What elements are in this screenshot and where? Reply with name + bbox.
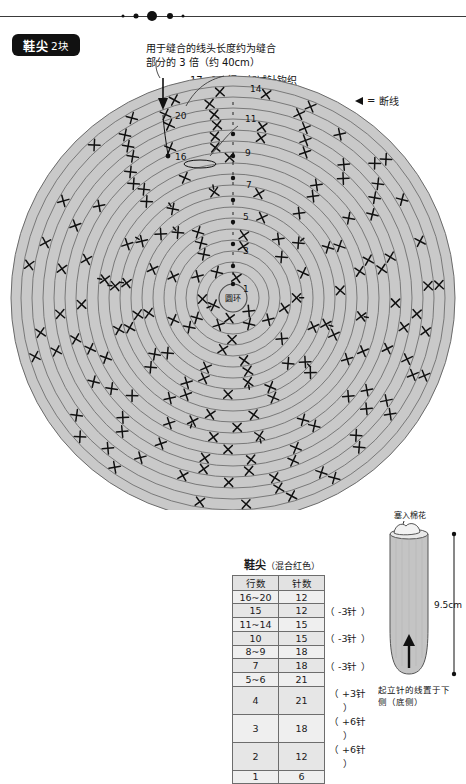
cell-change-note: [325, 618, 371, 631]
rule-line: [0, 16, 466, 17]
change-note-label: （ -3针 ）: [325, 633, 371, 644]
cell-row-number: 16~20: [233, 591, 279, 604]
cell-row-number: 4: [233, 686, 279, 714]
col-header-note: [325, 576, 371, 591]
row-label-11: 11: [245, 114, 256, 124]
table-row: 8~918: [233, 645, 371, 658]
cell-stitch-count: 18: [279, 714, 325, 742]
shoe-tip-illustration: 塞入棉花 9.5cm 起立针的线置于下 侧（底侧）: [378, 508, 466, 716]
footer-note-line2: 侧（底侧）: [378, 697, 423, 707]
top-decorative-rule: [0, 14, 466, 18]
col-header-stitches: 针数: [279, 576, 325, 591]
round-crochet-chart: 圆环 1 3 5 7 9 11 14 16 20 16: [0, 60, 466, 510]
table-row: 718（ -3针 ）: [233, 659, 371, 673]
stitch-count-table-wrap: 鞋尖（混合红色） 行数 针数 16~20121512（ -3针 ）11~1415…: [232, 556, 371, 784]
cotton-stuffing: [394, 524, 420, 535]
table-header-row: 行数 针数: [233, 576, 371, 591]
stitch-count-table: 行数 针数 16~20121512（ -3针 ）11~14151015（ -3针…: [232, 575, 371, 784]
row-label-3: 3: [243, 246, 249, 256]
table-row: 11~1415: [233, 618, 371, 631]
table-row: 16: [233, 770, 371, 783]
table-row: 16~2012: [233, 591, 371, 604]
page-title-count: 2块: [51, 38, 69, 53]
cell-row-number: 1: [233, 770, 279, 783]
row-label-20: 20: [175, 111, 187, 121]
height-label: 9.5cm: [434, 600, 462, 610]
table-row: 421（ +3针 ）: [233, 686, 371, 714]
stuffing-label: 塞入棉花: [394, 510, 426, 520]
cell-row-number: 7: [233, 659, 279, 673]
cell-stitch-count: 12: [279, 742, 325, 770]
cell-row-number: 2: [233, 742, 279, 770]
annotation-tail-length-line1: 用于缝合的线头长度约为缝合: [146, 42, 276, 56]
row-label-5: 5: [243, 212, 249, 222]
page-title: 鞋尖: [23, 37, 48, 54]
cell-row-number: 10: [233, 631, 279, 645]
cell-row-number: 3: [233, 714, 279, 742]
change-note-label: （ -3针 ）: [325, 606, 371, 617]
col-header-rows: 行数: [233, 576, 279, 591]
cell-row-number: 5~6: [233, 673, 279, 686]
cell-stitch-count: 12: [279, 591, 325, 604]
cell-stitch-count: 15: [279, 618, 325, 631]
footer-note-line1: 起立针的线置于下: [378, 685, 450, 695]
cell-stitch-count: 15: [279, 631, 325, 645]
rule-dot: [147, 11, 157, 21]
rule-dot: [182, 15, 185, 18]
rule-dot: [134, 14, 139, 19]
cell-stitch-count: 6: [279, 770, 325, 783]
table-row: 1015（ -3针 ）: [233, 631, 371, 645]
rule-dot: [167, 13, 173, 19]
table-row: 5~621: [233, 673, 371, 686]
change-note-label: （ -3针 ）: [325, 661, 371, 672]
rule-dot: [122, 15, 125, 18]
cell-change-note: [325, 673, 371, 686]
table-row: 212（ +6针 ）: [233, 742, 371, 770]
stitch-table-title: 鞋尖（混合红色）: [232, 556, 371, 572]
cell-row-number: 8~9: [233, 645, 279, 658]
row-label-14: 14: [250, 84, 262, 94]
change-note-label: （ +6针 ）: [329, 716, 366, 741]
cell-change-note: [325, 770, 371, 783]
row-label-16b: 16: [175, 152, 187, 162]
change-note-label: （ +3针 ）: [329, 688, 366, 713]
magic-ring-label: 圆环: [225, 294, 241, 303]
row-label-7: 7: [246, 180, 252, 190]
stitch-table-title-sub: （混合红色）: [266, 561, 320, 571]
cell-change-note: （ -3针 ）: [325, 659, 371, 673]
cell-change-note: （ +6针 ）: [325, 714, 371, 742]
cell-row-number: 11~14: [233, 618, 279, 631]
cell-change-note: （ -3针 ）: [325, 631, 371, 645]
cell-row-number: 15: [233, 604, 279, 618]
cell-change-note: （ +6针 ）: [325, 742, 371, 770]
cell-change-note: （ +3针 ）: [325, 686, 371, 714]
cell-stitch-count: 18: [279, 645, 325, 658]
cell-change-note: （ -3针 ）: [325, 604, 371, 618]
cell-stitch-count: 18: [279, 659, 325, 673]
cell-stitch-count: 21: [279, 673, 325, 686]
row-label-1: 1: [243, 284, 249, 294]
row-label-9: 9: [245, 148, 251, 158]
cell-stitch-count: 12: [279, 604, 325, 618]
cell-stitch-count: 21: [279, 686, 325, 714]
table-row: 1512（ -3针 ）: [233, 604, 371, 618]
change-note-label: （ +6针 ）: [329, 744, 366, 769]
page-title-badge: 鞋尖 2块: [12, 34, 80, 56]
stitch-table-title-main: 鞋尖: [244, 559, 266, 572]
table-row: 318（ +6针 ）: [233, 714, 371, 742]
cell-change-note: [325, 591, 371, 604]
cell-change-note: [325, 645, 371, 658]
